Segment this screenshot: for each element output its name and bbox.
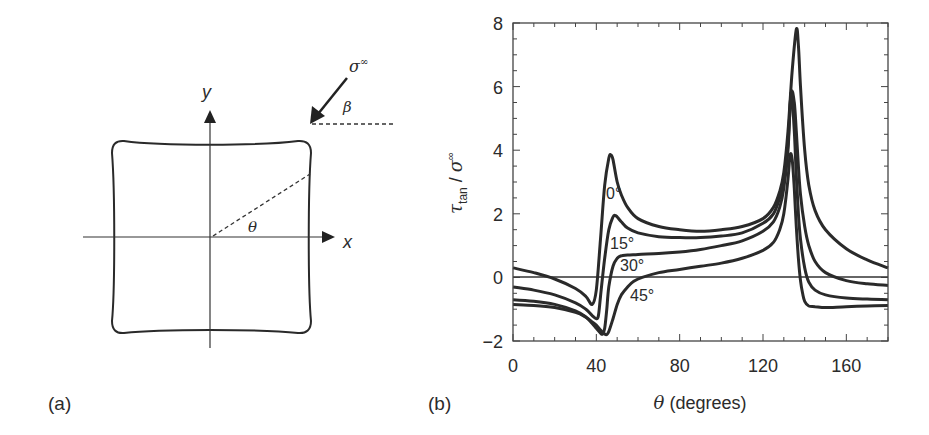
y-tick-label: −2 — [482, 332, 503, 352]
x-tick-label: 120 — [748, 356, 778, 376]
y-axis-title: τtan / σ∞ — [444, 152, 470, 214]
theta-radius-line — [213, 174, 310, 236]
curve-30deg — [513, 93, 888, 335]
tick-labels: 04080120160−202468 — [482, 14, 861, 376]
x-tick-label: 0 — [508, 356, 518, 376]
curve-label-15: 15° — [610, 235, 634, 252]
load-label: σ∞ — [349, 56, 368, 76]
x-tick-label: 160 — [831, 356, 861, 376]
x-axis-arrow-icon — [322, 231, 335, 243]
y-tick-label: 4 — [493, 141, 503, 161]
y-tick-label: 2 — [493, 205, 503, 225]
plot-frame — [513, 23, 888, 341]
curve-label-0: 0° — [606, 185, 621, 202]
x-tick-label: 80 — [670, 356, 690, 376]
curve-label-45: 45° — [630, 287, 654, 304]
panel-a-label: (a) — [48, 393, 71, 414]
x-axis-title: θ (degrees) — [654, 392, 747, 413]
chart-curves — [513, 28, 888, 334]
figure: y x θ β σ∞ (a) 04080120160−202468 0° 15°… — [0, 0, 929, 435]
panel-b: 04080120160−202468 0° 15° 30° 45° θ (deg… — [428, 14, 888, 414]
y-axis-label: y — [200, 82, 212, 102]
x-axis-label: x — [342, 232, 353, 252]
y-tick-label: 8 — [493, 14, 503, 34]
y-tick-label: 6 — [493, 78, 503, 98]
x-tick-label: 40 — [586, 356, 606, 376]
chart-ticks — [513, 23, 888, 341]
y-tick-label: 0 — [493, 268, 503, 288]
theta-label: θ — [248, 218, 257, 236]
beta-label: β — [342, 98, 352, 116]
y-axis-arrow-icon — [204, 110, 216, 123]
load-superscript: ∞ — [360, 56, 368, 67]
curve-label-30: 30° — [620, 257, 644, 274]
panel-a: y x θ β σ∞ (a) — [48, 56, 396, 414]
curve-0deg — [513, 28, 888, 304]
panel-b-label: (b) — [428, 393, 451, 414]
svg-text:τtan / σ∞: τtan / σ∞ — [444, 152, 470, 214]
